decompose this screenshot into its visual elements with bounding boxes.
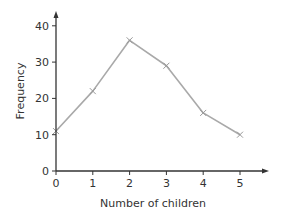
y-axis-ticks: 010203040 (35, 20, 56, 178)
x-tick-label: 3 (163, 177, 170, 190)
x-axis-label: Number of children (100, 197, 206, 210)
y-tick-label: 0 (42, 165, 49, 178)
y-axis (54, 11, 59, 171)
x-marker-icon (90, 88, 96, 94)
y-axis-label: Frequency (14, 62, 27, 119)
x-marker-icon (163, 63, 169, 69)
x-tick-label: 0 (53, 177, 60, 190)
x-tick-label: 1 (89, 177, 96, 190)
x-tick-label: 2 (126, 177, 133, 190)
x-axis-arrow-icon (262, 169, 269, 174)
x-marker-icon (200, 110, 206, 116)
y-axis-arrow-icon (54, 11, 59, 18)
frequency-line-series (56, 40, 240, 134)
x-tick-label: 4 (200, 177, 207, 190)
line-chart: 010203040 012345 Number of children Freq… (0, 0, 282, 221)
x-marker-icon (127, 37, 133, 43)
x-marker-icon (237, 132, 243, 138)
x-axis (56, 169, 269, 174)
y-tick-label: 10 (35, 129, 49, 142)
x-tick-label: 5 (237, 177, 244, 190)
y-tick-label: 30 (35, 56, 49, 69)
x-axis-ticks: 012345 (53, 171, 244, 190)
y-tick-label: 20 (35, 92, 49, 105)
y-tick-label: 40 (35, 20, 49, 33)
